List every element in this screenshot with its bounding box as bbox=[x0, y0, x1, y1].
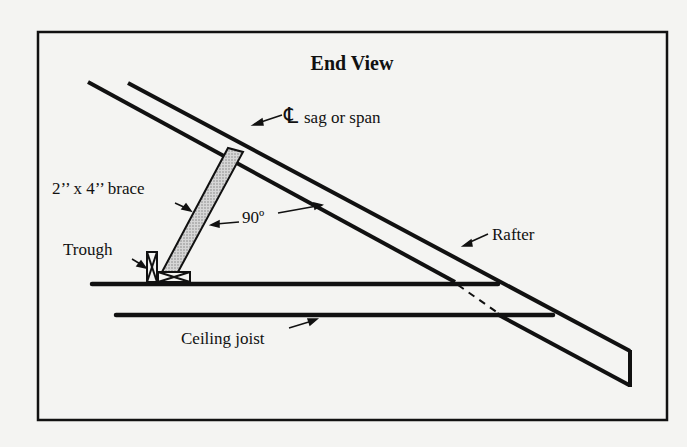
brace-label: 2’’ x 4’’ brace bbox=[52, 179, 145, 198]
arrowhead-icon bbox=[308, 319, 317, 325]
arrowhead-icon bbox=[253, 119, 263, 125]
diagram-title: End View bbox=[311, 52, 394, 74]
centerline-note: sag or span bbox=[304, 108, 381, 127]
arrowhead-icon bbox=[211, 221, 219, 227]
end-view-diagram: End View bbox=[0, 0, 687, 447]
brace-2x4 bbox=[162, 148, 243, 272]
trough-block bbox=[147, 252, 157, 282]
brace-foot-block bbox=[158, 272, 190, 282]
ceiling-joist-label: Ceiling joist bbox=[181, 329, 265, 348]
rafter-hidden-line bbox=[458, 285, 498, 313]
rafter bbox=[88, 82, 630, 387]
trough-label: Trough bbox=[63, 240, 113, 259]
rafter-label: Rafter bbox=[492, 225, 535, 244]
arrowhead-icon bbox=[182, 204, 191, 211]
angle-leader-right bbox=[278, 206, 317, 213]
centerline-symbol: ℄ bbox=[283, 103, 299, 128]
arrowhead-icon bbox=[463, 240, 472, 246]
angle-label: 90º bbox=[242, 208, 264, 227]
